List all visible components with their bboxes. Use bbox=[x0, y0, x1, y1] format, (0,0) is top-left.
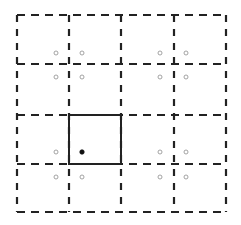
filled-point bbox=[80, 150, 84, 154]
highlighted-cell bbox=[69, 115, 121, 164]
hollow-point bbox=[158, 51, 162, 55]
dashed-grid-lines bbox=[17, 15, 226, 212]
hollow-point bbox=[158, 75, 162, 79]
hollow-point bbox=[184, 175, 188, 179]
hollow-point bbox=[80, 51, 84, 55]
hollow-point bbox=[54, 175, 58, 179]
hollow-point bbox=[184, 75, 188, 79]
hollow-point bbox=[80, 175, 84, 179]
hollow-point bbox=[184, 150, 188, 154]
hollow-point bbox=[158, 175, 162, 179]
hollow-point bbox=[54, 75, 58, 79]
hollow-point bbox=[158, 150, 162, 154]
hollow-point bbox=[80, 75, 84, 79]
hollow-point bbox=[54, 150, 58, 154]
hollow-point bbox=[54, 51, 58, 55]
grid-diagram bbox=[0, 0, 241, 225]
highlighted-cell-border bbox=[69, 115, 121, 164]
hollow-point bbox=[184, 51, 188, 55]
